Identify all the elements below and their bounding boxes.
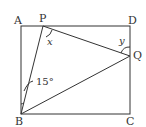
label-c: C (126, 115, 134, 127)
angle-x-label: x (47, 36, 53, 47)
segment-bp (21, 26, 43, 114)
angle-y-label: y (118, 35, 125, 46)
label-p: P (39, 12, 47, 25)
geometry-diagram: A P D Q B C x y 15° (0, 0, 146, 127)
label-d: D (128, 14, 137, 27)
segment-pq (43, 26, 130, 56)
angle-15-label: 15° (36, 76, 54, 87)
label-q: Q (133, 49, 142, 62)
rectangle-abcd (21, 26, 130, 114)
label-a: A (13, 14, 23, 27)
label-b: B (15, 115, 23, 127)
angle-y-arc (121, 47, 130, 53)
